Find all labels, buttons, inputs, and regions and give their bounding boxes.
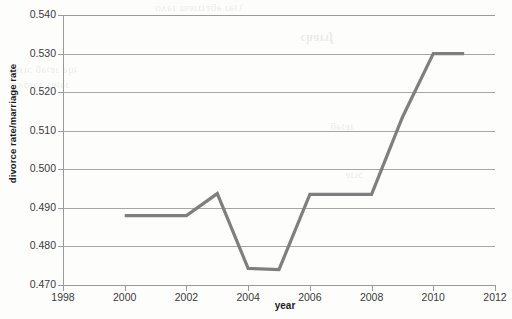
chart-figure: ʅʇəɹ ǝƃɐıɹɹɐɯ ɹəʌo ʄıɹɐɥɔ ʇɥə ɹɐʇǝƃ ɔıɹɐ… (0, 0, 512, 319)
line-series-divorce-marriage-ratio (125, 54, 464, 270)
data-series-layer (0, 0, 512, 319)
